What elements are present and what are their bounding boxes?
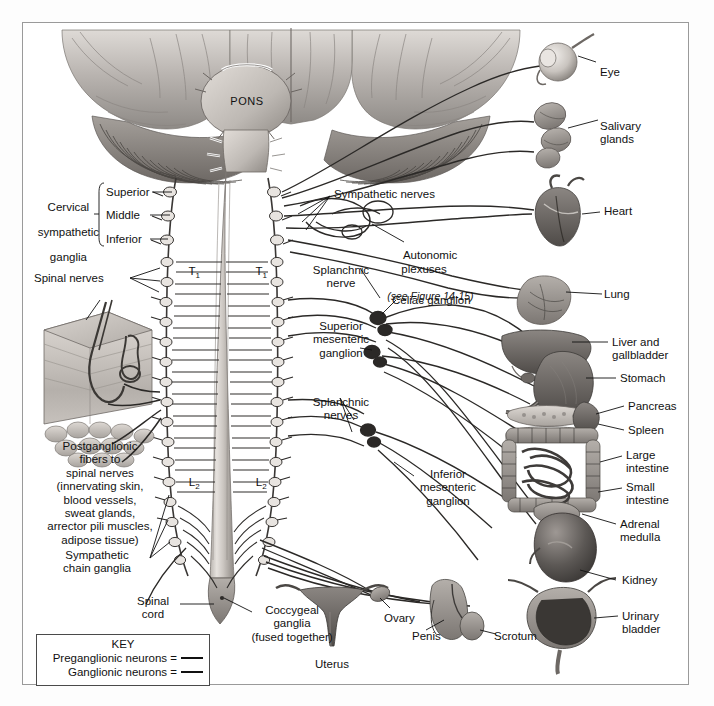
cervical-sympathetic-ganglia-label: Cervical sympathetic ganglia xyxy=(20,188,104,276)
key-ganglionic-line-swatch xyxy=(181,671,203,673)
key-title: KEY xyxy=(43,638,203,650)
splanchnic-nerves-label: Splanchnic nerves xyxy=(306,396,376,423)
cervical-line3: ganglia xyxy=(50,251,87,263)
t1-left-letter: T xyxy=(189,265,196,277)
cervical-line1: Cervical xyxy=(48,201,90,213)
splanchnic-nerve-label: Splanchnic nerve xyxy=(308,264,374,291)
heart-label: Heart xyxy=(604,205,684,218)
superior-ganglion-label: Superior xyxy=(106,186,158,199)
key-row-ganglionic: Ganglionic neurons = xyxy=(43,666,203,678)
key-preganglionic-label: Preganglionic neurons = xyxy=(53,652,177,664)
spinal-nerves-label: Spinal nerves xyxy=(34,272,130,285)
eye-label: Eye xyxy=(600,66,680,79)
postganglionic-fibers-label: Postganglionic fibers to spinal nerves (… xyxy=(26,440,174,547)
uterus-label: Uterus xyxy=(300,658,364,671)
spleen-label: Spleen xyxy=(628,424,708,437)
t1-level-right-label: T1 xyxy=(243,252,267,295)
t1-right-letter: T xyxy=(256,265,263,277)
l2-right-sub: 2 xyxy=(262,482,266,491)
penis-label: Penis xyxy=(412,630,462,643)
pancreas-label: Pancreas xyxy=(628,400,708,413)
anatomy-figure: PONS Cervical sympathetic ganglia Superi… xyxy=(0,0,714,706)
sympathetic-nerves-label: Sympathetic nerves xyxy=(334,188,462,201)
sympathetic-chain-ganglia-label: Sympathetic chain ganglia xyxy=(44,549,150,576)
celiac-ganglion-label: Celiac ganglion xyxy=(392,294,496,307)
pons-label: PONS xyxy=(216,95,278,108)
t1-left-sub: 1 xyxy=(196,271,200,280)
inferior-mesenteric-ganglion-label: Inferior mesenteric ganglion xyxy=(412,468,484,508)
key-box: KEY Preganglionic neurons = Ganglionic n… xyxy=(36,634,210,686)
key-row-preganglionic: Preganglionic neurons = xyxy=(43,652,203,664)
large-intestine-label: Large intestine xyxy=(626,449,706,476)
liver-gallbladder-label: Liver and gallbladder xyxy=(612,336,698,363)
t1-level-left-label: T1 xyxy=(176,252,200,295)
t1-right-sub: 1 xyxy=(263,271,267,280)
key-preganglionic-line-swatch xyxy=(181,657,203,659)
coccygeal-ganglia-label: Coccygeal ganglia (fused together) xyxy=(230,604,354,644)
key-ganglionic-label: Ganglionic neurons = xyxy=(68,666,177,678)
scrotum-label: Scrotum xyxy=(494,630,556,643)
autonomic-plexuses-text: Autonomic plexuses xyxy=(401,249,457,274)
spinal-cord-label: Spinal cord xyxy=(126,595,180,622)
stomach-label: Stomach xyxy=(620,372,700,385)
ovary-label: Ovary xyxy=(384,612,434,625)
small-intestine-label: Small intestine xyxy=(626,481,706,508)
l2-level-right-label: L2 xyxy=(243,463,267,506)
l2-level-left-label: L2 xyxy=(176,463,200,506)
middle-ganglion-label: Middle xyxy=(106,209,158,222)
inferior-ganglion-label: Inferior xyxy=(106,233,158,246)
cervical-line2: sympathetic xyxy=(38,226,99,238)
lung-label: Lung xyxy=(604,288,684,301)
urinary-bladder-label: Urinary bladder xyxy=(622,610,702,637)
l2-left-sub: 2 xyxy=(195,482,199,491)
adrenal-medulla-label: Adrenal medulla xyxy=(620,518,702,545)
kidney-label: Kidney xyxy=(622,574,702,587)
salivary-glands-label: Salivary glands xyxy=(600,120,680,147)
superior-mesenteric-ganglion-label: Superior mesenteric ganglion xyxy=(304,320,378,360)
